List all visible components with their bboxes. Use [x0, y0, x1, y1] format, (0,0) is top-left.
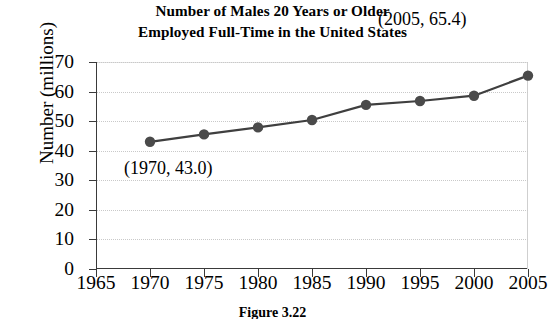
x-axis-tick-label: 1985 [282, 272, 342, 294]
y-axis-tick-label: 0 [14, 259, 74, 279]
y-axis-tick-label: 30 [14, 170, 74, 190]
plot-area: 010203040506070 196519701975198019851990… [96, 62, 528, 269]
data-point [523, 70, 533, 80]
x-axis-tick-label: 1980 [228, 272, 288, 294]
y-axis-tick-label: 70 [14, 52, 74, 72]
x-axis-tick-label: 1975 [174, 272, 234, 294]
data-point [145, 137, 155, 147]
series-markers [145, 70, 533, 147]
y-axis-tick-label: 10 [14, 229, 74, 249]
annotation-last-point: (2005, 65.4) [378, 9, 467, 29]
data-point [415, 96, 425, 106]
annotation-first-point: (1970, 43.0) [124, 158, 213, 178]
y-axis-tick-label: 40 [14, 141, 74, 161]
x-axis-tick-label: 1965 [66, 272, 126, 294]
x-axis-tick-label: 2000 [444, 272, 504, 294]
data-point [199, 129, 209, 139]
x-axis-tick-label: 1970 [120, 272, 180, 294]
figure-caption: Figure 3.22 [0, 305, 545, 319]
x-axis-tick-label: 1990 [336, 272, 396, 294]
x-axis-tick-label: 2005 [498, 272, 552, 294]
y-axis-tick-label: 60 [14, 82, 74, 102]
data-point [469, 91, 479, 101]
data-point [361, 100, 371, 110]
x-axis-tick-label: 1995 [390, 272, 450, 294]
y-axis-tick-label: 50 [14, 111, 74, 131]
y-axis-tick-label: 20 [14, 200, 74, 220]
data-point [307, 115, 317, 125]
data-point [253, 122, 263, 132]
